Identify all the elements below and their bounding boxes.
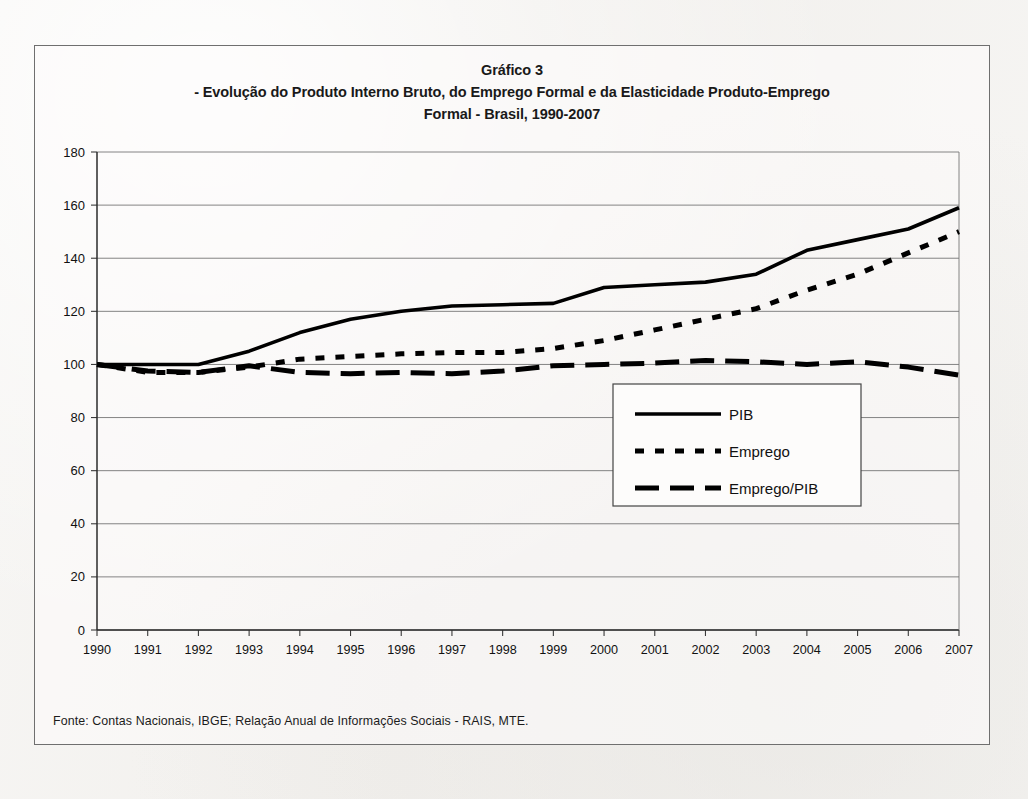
x-tick-label: 1990 (83, 643, 111, 657)
y-tick-label: 60 (71, 463, 85, 478)
x-tick-label: 2006 (894, 643, 922, 657)
data-series (97, 208, 959, 375)
legend-label: PIB (729, 406, 753, 423)
x-tick-label: 2001 (641, 643, 669, 657)
line-chart: 020406080100120140160180 199019911992199… (35, 132, 991, 702)
x-tick-label: 1999 (539, 643, 567, 657)
chart-title: Gráfico 3 - Evolução do Produto Interno … (35, 59, 989, 125)
x-tick-label: 2007 (945, 643, 973, 657)
y-axis-ticks: 020406080100120140160180 (63, 145, 97, 638)
x-tick-label: 1994 (286, 643, 314, 657)
series-line (97, 232, 959, 373)
y-tick-label: 100 (63, 357, 85, 372)
x-tick-label: 2000 (590, 643, 618, 657)
y-tick-label: 180 (63, 145, 85, 160)
chart-legend[interactable]: PIBEmpregoEmprego/PIB (613, 384, 861, 506)
legend-label: Emprego/PIB (729, 480, 818, 497)
x-tick-label: 2002 (691, 643, 719, 657)
x-tick-label: 1998 (489, 643, 517, 657)
x-tick-label: 1997 (438, 643, 466, 657)
chart-title-line-3: Formal - Brasil, 1990-2007 (35, 103, 989, 125)
x-tick-label: 2003 (742, 643, 770, 657)
legend-label: Emprego (729, 443, 790, 460)
x-tick-label: 1992 (184, 643, 212, 657)
source-note: Fonte: Contas Nacionais, IBGE; Relação A… (53, 714, 529, 728)
y-tick-label: 140 (63, 251, 85, 266)
series-line (97, 208, 959, 365)
y-tick-label: 160 (63, 198, 85, 213)
x-tick-label: 2004 (793, 643, 821, 657)
x-tick-label: 1995 (337, 643, 365, 657)
y-tick-label: 120 (63, 304, 85, 319)
x-axis-ticks: 1990199119921993199419951996199719981999… (83, 630, 973, 657)
series-line (97, 360, 959, 375)
plot-area: 020406080100120140160180 199019911992199… (35, 132, 991, 702)
y-tick-label: 0 (78, 623, 85, 638)
y-tick-label: 20 (71, 569, 85, 584)
x-tick-label: 1993 (235, 643, 263, 657)
figure-frame: Gráfico 3 - Evolução do Produto Interno … (34, 45, 990, 745)
chart-title-line-2: - Evolução do Produto Interno Bruto, do … (35, 81, 989, 103)
x-tick-label: 1991 (134, 643, 162, 657)
y-tick-label: 80 (71, 410, 85, 425)
x-tick-label: 1996 (387, 643, 415, 657)
x-tick-label: 2005 (844, 643, 872, 657)
chart-title-line-1: Gráfico 3 (35, 59, 989, 81)
y-tick-label: 40 (71, 516, 85, 531)
